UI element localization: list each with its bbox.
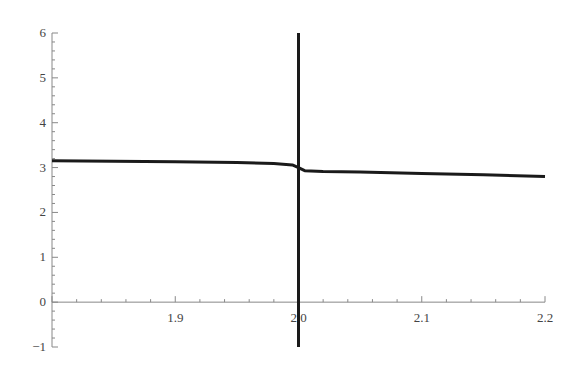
- y-tick-label: 4: [40, 115, 47, 130]
- chart: −10123456 1.92.02.12.2: [0, 0, 580, 372]
- x-tick-label: 2.1: [414, 310, 430, 325]
- y-tick-label: 1: [40, 249, 47, 264]
- y-axis: −10123456: [32, 25, 58, 354]
- x-tick-label: 2.2: [537, 310, 553, 325]
- x-tick-label: 1.9: [167, 310, 183, 325]
- y-tick-label: 0: [40, 294, 47, 309]
- y-tick-label: 3: [40, 160, 47, 175]
- y-tick-label: −1: [32, 339, 46, 354]
- y-tick-label: 2: [40, 204, 47, 219]
- x-axis: 1.92.02.12.2: [52, 296, 553, 325]
- y-tick-label: 5: [40, 70, 47, 85]
- y-tick-label: 6: [40, 25, 47, 40]
